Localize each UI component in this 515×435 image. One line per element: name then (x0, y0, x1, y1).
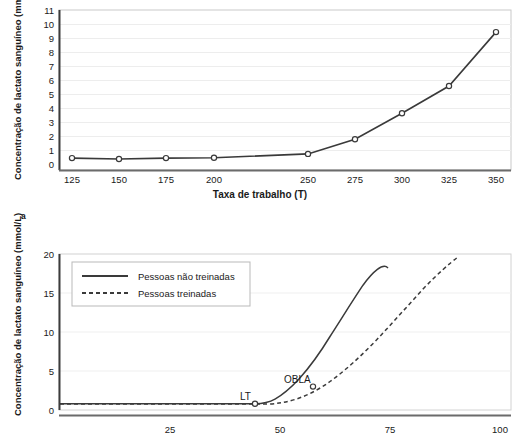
panel-a-xtick-150: 150 (104, 174, 134, 185)
panel-b-xtick-50: 50 (265, 424, 295, 435)
panel-a-xtick-200: 200 (199, 174, 229, 185)
chart-panel-b: Concentração de lactato sanguíneo (mmol/… (0, 228, 515, 427)
panel-b-legend-box (72, 262, 250, 306)
panel-b-ytick-5: 5 (32, 366, 54, 377)
panel-b-legend-label-untrained: Pessoas não treinadas (138, 271, 235, 282)
panel-a-ytick-4: 4 (32, 103, 54, 114)
panel-b-ytick-0: 0 (32, 405, 54, 416)
panel-b-legend-label-trained: Pessoas treinadas (138, 288, 216, 299)
panel-a-ytick-1: 1 (32, 145, 54, 156)
panel-b-ytick-15: 15 (32, 288, 54, 299)
panel-a-ytick-11: 11 (32, 5, 54, 16)
panel-b-ytick-20: 20 (32, 249, 54, 260)
panel-a-ytick-6: 6 (32, 75, 54, 86)
panel-a-x-axis-title: Taxa de trabalho (T) (130, 189, 390, 200)
panel-a-xtick-175: 175 (151, 174, 181, 185)
panel-b-xtick-75: 75 (375, 424, 405, 435)
panel-a-ytick-0: 0 (32, 159, 54, 170)
panel-a-ytick-10: 10 (32, 19, 54, 30)
panel-a-xtick-275: 275 (340, 174, 370, 185)
panel-a-ytick-3: 3 (32, 117, 54, 128)
panel-a-ytick-8: 8 (32, 47, 54, 58)
panel-a-y-axis-title: Concentração de lactato sanguíneo (mmol/… (12, 0, 23, 180)
panel-b-plot: Pessoas não treinadas Pessoas treinadas (58, 228, 513, 427)
panel-a-ytick-5: 5 (32, 89, 54, 100)
chart-panel-a: Concentração de lactato sanguíneo (mmol/… (0, 0, 515, 200)
panel-a-ytick-7: 7 (32, 61, 54, 72)
panel-a-xtick-125: 125 (57, 174, 87, 185)
panel-a-ytick-9: 9 (32, 33, 54, 44)
panel-a-xtick-300: 300 (387, 174, 417, 185)
panel-b-lt-marker (252, 401, 257, 406)
panel-b-y-axis-title: Concentração de lactato sanguíneo (mmol/… (12, 213, 23, 416)
panel-b-annotation-lt: LT (240, 391, 251, 402)
panel-a-xtick-350: 350 (481, 174, 511, 185)
panel-b-annotation-obla: OBLA (284, 374, 311, 385)
panel-a-plot (58, 5, 513, 190)
panel-b-xtick-25: 25 (155, 424, 185, 435)
panel-a-ytick-2: 2 (32, 131, 54, 142)
panel-a-xtick-250: 250 (293, 174, 323, 185)
panel-b-obla-marker (310, 384, 315, 389)
panel-b-ytick-10: 10 (32, 327, 54, 338)
panel-a-xtick-325: 325 (434, 174, 464, 185)
panel-b-xtick-100: 100 (485, 424, 515, 435)
